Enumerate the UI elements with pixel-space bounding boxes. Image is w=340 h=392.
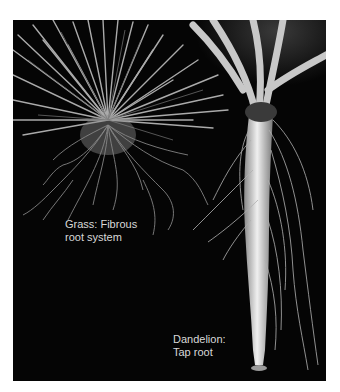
grass-label: Grass: Fibrous root system <box>65 218 137 244</box>
root-systems-photo: Grass: Fibrous root system Dandelion: Ta… <box>13 20 326 381</box>
dandelion-label-line2: Tap root <box>173 346 226 359</box>
dandelion-label-line1: Dandelion: <box>173 333 226 346</box>
grass-crown <box>80 115 136 155</box>
dandelion-label: Dandelion: Tap root <box>173 333 226 359</box>
grass-label-line2: root system <box>65 231 137 244</box>
grass-label-line1: Grass: Fibrous <box>65 218 137 231</box>
dandelion-crown <box>245 102 277 122</box>
root-systems-illustration <box>13 20 326 381</box>
